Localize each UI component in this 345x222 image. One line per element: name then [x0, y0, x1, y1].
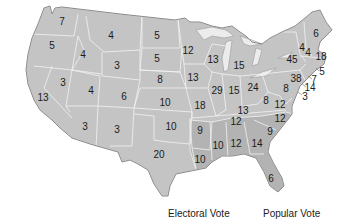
- state-label-ne: 8: [157, 75, 163, 85]
- state-label-ok: 10: [165, 122, 176, 132]
- state-label-nd: 5: [154, 31, 160, 41]
- state-label-nh: 4: [305, 48, 311, 58]
- state-label-ga: 14: [251, 139, 262, 149]
- state-label-tx: 20: [153, 150, 164, 160]
- state-label-ma: 18: [315, 52, 326, 62]
- state-label-in: 15: [228, 86, 239, 96]
- state-label-ny: 45: [286, 55, 297, 65]
- state-label-vt: 4: [299, 43, 305, 53]
- state-label-ia: 13: [187, 73, 198, 83]
- legend-popular-vote: Popular Vote: [263, 208, 320, 219]
- state-label-fl: 6: [268, 174, 274, 184]
- state-label-ca: 13: [37, 93, 48, 103]
- state-label-id: 4: [80, 50, 86, 60]
- state-label-mn: 12: [182, 46, 193, 56]
- state-label-nm: 3: [114, 125, 120, 135]
- state-label-oh: 24: [247, 83, 258, 93]
- state-label-ky: 13: [237, 106, 248, 116]
- state-label-nv: 3: [60, 78, 66, 88]
- state-label-sc: 9: [267, 127, 273, 137]
- state-label-al: 12: [230, 139, 241, 149]
- state-label-ar: 9: [197, 126, 203, 136]
- state-label-ks: 10: [159, 98, 170, 108]
- state-label-de: 3: [302, 92, 308, 102]
- us-map: [0, 0, 345, 222]
- state-label-az: 3: [82, 122, 88, 132]
- state-label-wi: 13: [207, 55, 218, 65]
- state-label-mo: 18: [194, 101, 205, 111]
- state-label-wa: 7: [59, 17, 65, 27]
- state-label-ut: 4: [88, 86, 94, 96]
- state-label-wv: 8: [263, 96, 269, 106]
- state-label-va: 12: [274, 100, 285, 110]
- state-label-nc: 12: [274, 114, 285, 124]
- state-label-wy: 3: [114, 61, 120, 71]
- state-label-mi: 15: [233, 61, 244, 71]
- state-label-co: 6: [121, 92, 127, 102]
- state-label-sd: 5: [154, 54, 160, 64]
- state-label-ms: 10: [212, 141, 223, 151]
- state-label-pa: 38: [290, 74, 301, 84]
- state-label-la: 10: [194, 155, 205, 165]
- state-label-ri: 5: [319, 67, 325, 77]
- state-label-md: 8: [283, 84, 289, 94]
- state-label-tn: 12: [230, 117, 241, 127]
- state-label-or: 5: [49, 41, 55, 51]
- state-label-il: 29: [211, 86, 222, 96]
- state-label-me: 6: [313, 29, 319, 39]
- state-label-mt: 4: [108, 31, 114, 41]
- legend-electoral-vote: Electoral Vote: [168, 208, 230, 219]
